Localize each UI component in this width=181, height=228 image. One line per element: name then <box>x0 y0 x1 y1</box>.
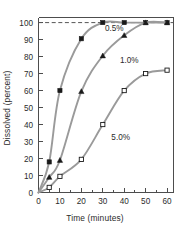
data-point-filled-triangle <box>79 89 84 94</box>
data-point-filled-square <box>79 37 83 41</box>
y-tick-label: 30 <box>24 138 34 147</box>
y-tick-label: 0 <box>28 189 33 198</box>
dissolution-chart-figure: 01020304050607080901000102030405060 0.5%… <box>0 0 181 228</box>
chart-canvas: 01020304050607080901000102030405060 0.5%… <box>0 0 181 228</box>
y-tick-label: 20 <box>24 155 34 164</box>
series-5-0- <box>39 68 170 192</box>
y-tick-label: 100 <box>19 19 33 28</box>
data-point-filled-square <box>47 160 51 164</box>
x-tick-label: 50 <box>141 197 151 206</box>
y-axis-label: Dissolved (percent) <box>2 70 12 145</box>
x-axis-label: Time (minutes) <box>66 213 124 223</box>
tick-labels: 01020304050607080901000102030405060 <box>19 19 172 206</box>
x-tick-label: 0 <box>36 197 41 206</box>
data-point-open-square <box>79 157 83 161</box>
data-point-open-square <box>144 71 148 75</box>
data-series <box>39 20 170 193</box>
y-tick-label: 70 <box>24 70 34 79</box>
series-1-0- <box>39 20 170 193</box>
series-line <box>39 22 168 193</box>
y-tick-label: 50 <box>24 104 34 113</box>
y-tick-label: 60 <box>24 87 34 96</box>
x-tick-label: 30 <box>98 197 108 206</box>
x-tick-label: 40 <box>120 197 130 206</box>
series-annotations: 0.5%1.0%5.0% <box>105 24 139 142</box>
data-point-filled-triangle <box>57 158 62 163</box>
data-point-filled-square <box>58 88 62 92</box>
y-tick-label: 80 <box>24 53 34 62</box>
series-label-0-5: 0.5% <box>105 24 124 33</box>
data-point-open-square <box>165 68 169 72</box>
x-tick-label: 60 <box>163 197 173 206</box>
data-point-open-square <box>58 174 62 178</box>
series-label-5-0: 5.0% <box>111 133 130 142</box>
data-point-open-square <box>47 185 51 189</box>
y-tick-label: 90 <box>24 36 34 45</box>
series-label-1-0: 1.0% <box>120 56 139 65</box>
y-tick-label: 10 <box>24 172 34 181</box>
data-point-open-square <box>101 122 105 126</box>
plot-frame <box>39 18 174 193</box>
y-tick-label: 40 <box>24 121 34 130</box>
x-tick-label: 10 <box>55 197 65 206</box>
x-tick-label: 20 <box>77 197 87 206</box>
data-point-open-square <box>122 88 126 92</box>
